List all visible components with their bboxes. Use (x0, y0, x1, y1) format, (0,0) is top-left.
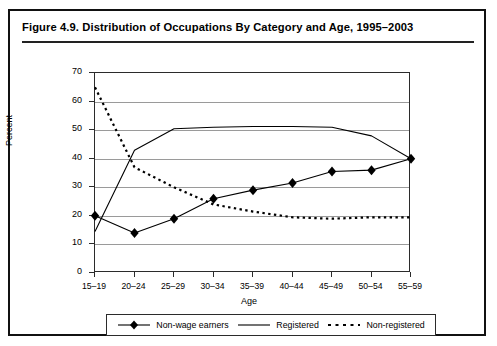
data-point-marker (130, 228, 138, 238)
figure-frame: Figure 4.9. Distribution of Occupations … (8, 9, 486, 336)
y-axis-title: Percent (4, 115, 14, 146)
legend-swatch-icon (237, 320, 271, 330)
x-axis-tick-label: 55–59 (387, 281, 433, 291)
series-line-non-wage-earners (95, 159, 411, 233)
page-title: Figure 4.9. Distribution of Occupations … (22, 21, 472, 33)
legend-swatch-icon (327, 320, 361, 330)
series-line-non-registered (95, 87, 411, 218)
y-axis-tick-label: 50 (52, 123, 82, 133)
series-layer (95, 73, 411, 273)
chart-legend: Non-wage earnersRegisteredNon-registered (106, 314, 436, 336)
legend-item[interactable]: Non-registered (327, 320, 424, 330)
plot-area (94, 72, 410, 272)
legend-label: Non-registered (366, 320, 424, 330)
legend-swatch-icon (117, 320, 151, 330)
x-axis-title: Age (10, 296, 488, 306)
title-block: Figure 4.9. Distribution of Occupations … (22, 21, 472, 33)
y-axis-tick-label: 70 (52, 66, 82, 76)
data-point-marker (249, 185, 257, 195)
y-axis-tick-label: 30 (52, 180, 82, 190)
data-point-marker (407, 154, 415, 164)
series-line-registered (95, 126, 411, 231)
legend-item[interactable]: Non-wage earners (117, 320, 228, 330)
data-point-marker (288, 178, 296, 188)
y-axis-tick-label: 40 (52, 152, 82, 162)
data-point-marker (367, 165, 375, 175)
data-point-marker (328, 167, 336, 177)
legend-label: Registered (276, 320, 319, 330)
y-axis-tick-label: 20 (52, 209, 82, 219)
y-axis-tick-label: 10 (52, 237, 82, 247)
chart-container: Percent Age 706050403020100 15–1920–2425… (10, 51, 488, 301)
legend-label: Non-wage earners (156, 320, 228, 330)
legend-item[interactable]: Registered (237, 320, 319, 330)
data-point-marker (170, 214, 178, 224)
data-point-marker (209, 194, 217, 204)
y-axis-tick-label: 0 (52, 266, 82, 276)
data-point-marker (91, 211, 99, 221)
y-axis-tick-label: 60 (52, 95, 82, 105)
title-divider (22, 41, 474, 43)
